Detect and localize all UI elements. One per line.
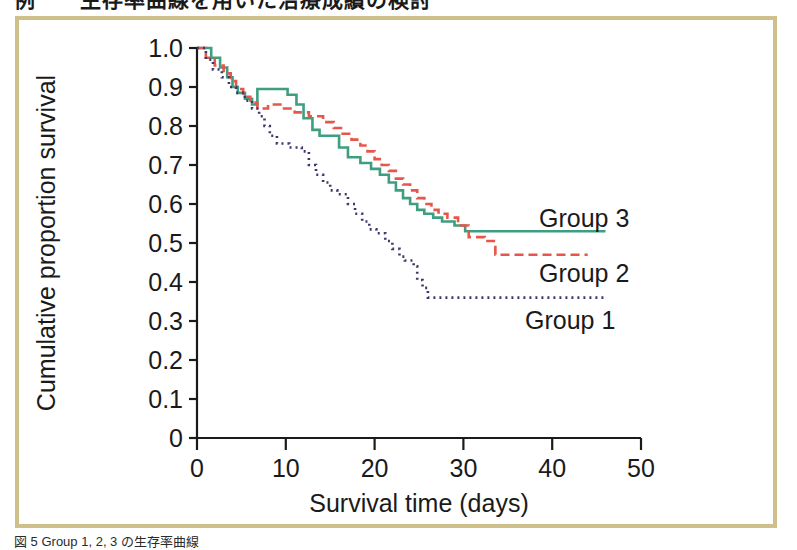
y-tick-label-0: 0 [169, 424, 183, 452]
survival-curve-chart: 1.0 0.9 0.8 0.7 0.6 0.5 0.4 0.3 0.2 0.1 … [19, 20, 773, 524]
series-label-group-1: Group 1 [525, 306, 615, 334]
x-tick-label-20: 20 [361, 454, 389, 482]
y-tick-label-0.6: 0.6 [148, 190, 183, 218]
x-tick-label-10: 10 [272, 454, 300, 482]
km-curve-group-2 [197, 48, 588, 255]
y-axis-title: Cumulative proportion survival [32, 75, 60, 411]
y-axis-ticks [189, 48, 197, 438]
x-axis-title: Survival time (days) [309, 489, 529, 517]
y-tick-label-0.5: 0.5 [148, 229, 183, 257]
figure-page: 例 生存率曲線を用いた治療成績の検討 1.0 [0, 0, 797, 550]
y-tick-label-0.3: 0.3 [148, 307, 183, 335]
x-tick-label-40: 40 [538, 454, 566, 482]
x-axis-ticks [197, 438, 641, 450]
bottom-caption-text: 図 5 Group 1, 2, 3 の生存率曲線 [14, 536, 199, 550]
figure-frame: 1.0 0.9 0.8 0.7 0.6 0.5 0.4 0.3 0.2 0.1 … [15, 16, 777, 528]
x-tick-label-50: 50 [627, 454, 655, 482]
y-tick-label-0.7: 0.7 [148, 151, 183, 179]
series-label-group-2: Group 2 [539, 259, 629, 287]
bottom-caption-strip: 図 5 Group 1, 2, 3 の生存率曲線 [0, 536, 797, 550]
y-tick-label-0.4: 0.4 [148, 268, 183, 296]
x-tick-label-0: 0 [190, 454, 204, 482]
top-caption-text: 例 生存率曲線を用いた治療成績の検討 [14, 0, 432, 13]
y-tick-label-0.1: 0.1 [148, 385, 183, 413]
y-tick-label-1.0: 1.0 [148, 34, 183, 62]
x-tick-label-30: 30 [449, 454, 477, 482]
top-caption-strip: 例 生存率曲線を用いた治療成績の検討 [0, 0, 797, 13]
y-tick-label-0.9: 0.9 [148, 73, 183, 101]
series-label-group-3: Group 3 [539, 204, 629, 232]
y-tick-label-0.8: 0.8 [148, 112, 183, 140]
y-tick-label-0.2: 0.2 [148, 346, 183, 374]
